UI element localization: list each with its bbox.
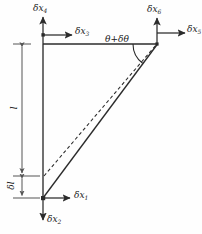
elongation-dimension-label: δl xyxy=(7,179,16,193)
frame-deformation-diagram: δx4 δx3 δx6 δx5 δx1 δx2 θ+δθ l δl xyxy=(0,0,202,234)
node-markers xyxy=(41,33,159,200)
length-dimension-label: l xyxy=(9,102,19,114)
diagram-canvas xyxy=(0,0,202,234)
dof-arrows xyxy=(43,17,185,220)
angle-arc-group xyxy=(133,44,143,63)
dof2-label: δx2 xyxy=(47,215,61,225)
dof4-label: δx4 xyxy=(33,4,47,14)
deformed-diagonal-line xyxy=(43,44,158,198)
dof5-label: δx5 xyxy=(187,25,201,35)
undeformed-diagonal-dashed-line xyxy=(44,45,156,176)
dimension-lines xyxy=(13,44,40,198)
dof3-label: δx3 xyxy=(75,27,89,37)
dof1-label: δx1 xyxy=(74,191,88,201)
structure-members xyxy=(43,44,158,198)
angle-label: θ+δθ xyxy=(105,35,129,44)
angle-arc xyxy=(133,44,143,63)
dof6-label: δx6 xyxy=(147,5,161,15)
